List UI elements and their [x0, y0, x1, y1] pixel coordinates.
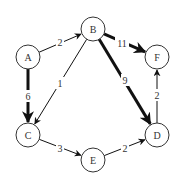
- edge-weight-label-c-e: 3: [58, 143, 63, 154]
- node-a: A: [16, 45, 40, 69]
- nodes-layer: ABCDEF: [16, 17, 169, 172]
- node-b: B: [81, 17, 105, 41]
- node-label: C: [25, 130, 32, 141]
- edge-labels-layer: 261119322: [24, 36, 161, 154]
- node-e: E: [81, 148, 105, 172]
- node-d: D: [145, 123, 169, 147]
- edge-weight-label-a-b: 2: [58, 37, 63, 48]
- node-f: F: [145, 45, 169, 69]
- edge-weight-label-a-c: 6: [26, 91, 31, 102]
- node-label: B: [90, 24, 97, 35]
- node-label: A: [24, 52, 32, 63]
- edge-weight-label-b-c: 1: [58, 78, 63, 89]
- edge-weight-label-b-d: 9: [123, 75, 128, 86]
- graph-diagram: 261119322 ABCDEF: [0, 0, 185, 186]
- edge-weight-label-b-f: 11: [117, 38, 127, 49]
- node-c: C: [16, 123, 40, 147]
- edge-weight-label-e-d: 2: [123, 143, 128, 154]
- edge-weight-label-d-f: 2: [155, 90, 160, 101]
- node-label: E: [90, 155, 96, 166]
- node-label: F: [154, 52, 160, 63]
- node-label: D: [153, 130, 160, 141]
- edges-layer: [28, 34, 157, 156]
